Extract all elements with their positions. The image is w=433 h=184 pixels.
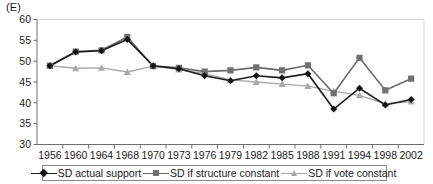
- x-tick-label: 1960: [64, 149, 88, 161]
- axis-lines: [34, 20, 425, 149]
- x-axis-tick-labels: 1956196019641968197019731976197919821985…: [38, 149, 423, 161]
- y-tick-label: 30: [19, 138, 31, 150]
- data-point-marker: [279, 74, 286, 81]
- x-tick-label: 1968: [116, 149, 140, 161]
- y-tick-label: 50: [19, 55, 31, 67]
- data-point-marker: [305, 62, 311, 68]
- x-tick-label: 1988: [296, 149, 320, 161]
- data-point-marker: [227, 77, 234, 84]
- data-point-marker: [279, 67, 285, 73]
- series-line: [50, 37, 411, 93]
- legend-label-actual: SD actual support: [57, 167, 143, 179]
- x-tick-label: 1970: [141, 149, 165, 161]
- x-tick-label: 1998: [374, 149, 398, 161]
- line-chart-plot: 30354045505560 1956196019641968197019731…: [0, 0, 433, 184]
- x-tick-label: 1964: [90, 149, 114, 161]
- y-tick-label: 35: [19, 117, 31, 129]
- y-tick-label: 45: [19, 76, 31, 88]
- legend-label-structure: SD if structure constant: [169, 167, 281, 179]
- data-point-marker: [253, 64, 259, 70]
- data-point-marker: [227, 67, 233, 73]
- triangle-marker-icon: [281, 167, 307, 179]
- diamond-marker-icon: [31, 167, 57, 179]
- x-tick-label: 1982: [245, 149, 269, 161]
- legend-entry-actual: SD actual support: [31, 167, 143, 179]
- chart-legend: SD actual support SD if structure consta…: [42, 165, 387, 181]
- legend-label-vote: SD if vote constant: [307, 167, 398, 179]
- x-tick-label: 1979: [219, 149, 243, 161]
- legend-entry-vote: SD if vote constant: [281, 167, 398, 179]
- data-series-group: [46, 34, 414, 113]
- x-tick-label: 1973: [167, 149, 191, 161]
- data-point-marker: [253, 72, 260, 79]
- data-point-marker: [331, 90, 337, 96]
- x-tick-label: 1985: [270, 149, 294, 161]
- x-tick-label: 1994: [348, 149, 372, 161]
- x-tick-label: 1991: [322, 149, 346, 161]
- y-tick-label: 55: [19, 34, 31, 46]
- y-tick-label: 40: [19, 97, 31, 109]
- data-point-marker: [356, 55, 362, 61]
- legend-entry-structure: SD if structure constant: [143, 167, 281, 179]
- x-tick-label: 1976: [193, 149, 217, 161]
- x-tick-label: 1956: [38, 149, 62, 161]
- y-axis-tick-labels: 30354045505560: [19, 13, 31, 150]
- y-tick-label: 60: [19, 13, 31, 25]
- data-point-marker: [408, 76, 414, 82]
- square-marker-icon: [143, 167, 169, 179]
- chart-figure: (E) 30354045505560 195619601964196819701…: [0, 0, 433, 184]
- x-tick-label: 2002: [399, 149, 423, 161]
- data-point-marker: [382, 87, 388, 93]
